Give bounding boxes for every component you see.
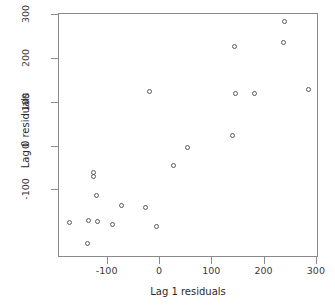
x-tick-mark — [107, 257, 108, 264]
data-point — [67, 220, 72, 225]
x-tick-label: 300 — [296, 266, 335, 276]
data-point — [233, 91, 238, 96]
data-point — [281, 40, 286, 45]
data-point — [91, 174, 96, 179]
x-tick-mark — [264, 257, 265, 264]
y-tick-mark — [51, 14, 58, 15]
y-tick-label: 300 — [2, 9, 50, 19]
x-tick-label: 0 — [139, 266, 179, 276]
y-axis-title: Lag 0 residuals — [20, 51, 31, 211]
x-axis-title: Lag 1 residuals — [58, 286, 318, 297]
y-tick-mark — [51, 189, 58, 190]
x-tick-label: 100 — [191, 266, 231, 276]
data-point — [95, 219, 100, 224]
data-point — [230, 133, 235, 138]
data-point — [282, 19, 287, 24]
y-tick-label-text: 300 — [21, 0, 31, 38]
data-point — [147, 89, 152, 94]
data-point — [306, 87, 311, 92]
y-tick-mark — [51, 58, 58, 59]
data-point — [185, 145, 190, 150]
data-point — [110, 222, 115, 227]
x-tick-label: -100 — [87, 266, 127, 276]
x-tick-mark — [159, 257, 160, 264]
data-point — [143, 205, 148, 210]
y-tick-mark — [51, 102, 58, 103]
scatter-plot-figure: -1000100200300 -1000100200300 Lag 1 resi… — [0, 0, 335, 307]
y-tick-mark — [51, 146, 58, 147]
data-point — [232, 44, 237, 49]
data-point — [119, 203, 124, 208]
x-tick-mark — [316, 257, 317, 264]
data-point — [171, 163, 176, 168]
x-tick-label: 200 — [244, 266, 284, 276]
data-points-layer — [59, 14, 317, 256]
data-point — [154, 224, 159, 229]
data-point — [252, 91, 257, 96]
x-tick-mark — [211, 257, 212, 264]
data-point — [86, 218, 91, 223]
plot-area — [58, 13, 318, 257]
data-point — [94, 193, 99, 198]
data-point — [85, 241, 90, 246]
